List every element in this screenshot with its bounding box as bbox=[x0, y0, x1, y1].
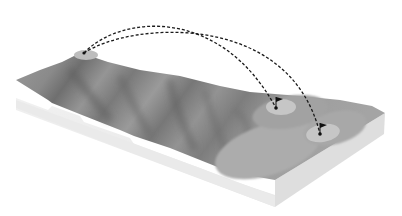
tee-marker-icon bbox=[82, 51, 85, 54]
terrain-diagram bbox=[0, 0, 402, 216]
terrain-svg bbox=[0, 0, 402, 216]
green-1 bbox=[266, 99, 296, 115]
